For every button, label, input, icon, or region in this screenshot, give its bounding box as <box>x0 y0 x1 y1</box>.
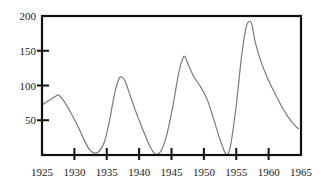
x-axis-tick-labels: 192519301935194019451950195519601965 <box>31 166 313 178</box>
x-tick-label: 1935 <box>96 166 119 178</box>
x-tick-label: 1965 <box>290 166 313 178</box>
x-tick-label: 1940 <box>128 166 151 178</box>
y-tick-label: 200 <box>20 10 37 22</box>
x-tick-label: 1955 <box>225 166 248 178</box>
x-tick-label: 1925 <box>31 166 54 178</box>
line-chart: 50100150200 1925193019351940194519501955… <box>0 0 322 187</box>
x-tick-label: 1930 <box>63 166 86 178</box>
y-tick-label: 100 <box>20 80 37 92</box>
x-tick-label: 1960 <box>258 166 281 178</box>
x-tick-label: 1950 <box>193 166 216 178</box>
y-tick-label: 150 <box>20 45 37 57</box>
y-axis-tick-labels: 50100150200 <box>20 10 37 126</box>
x-tick-label: 1945 <box>161 166 184 178</box>
data-line <box>42 21 298 155</box>
axis-ticks <box>37 51 269 160</box>
y-tick-label: 50 <box>25 114 37 126</box>
